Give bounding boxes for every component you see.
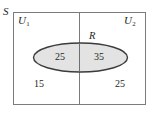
count-r-intersect-u2: 35 bbox=[94, 52, 104, 62]
region-u1-letter: U bbox=[18, 14, 26, 26]
region-u2-label: U2 bbox=[124, 15, 135, 26]
count-u1-outside-r: 15 bbox=[34, 79, 44, 89]
sample-space-label: S bbox=[3, 6, 9, 17]
count-r-intersect-u1: 25 bbox=[55, 52, 65, 62]
region-u1-label: U1 bbox=[18, 15, 29, 26]
event-r-label: R bbox=[89, 31, 95, 42]
event-r-ellipse bbox=[34, 43, 128, 72]
region-u1-subscript: 1 bbox=[26, 20, 29, 27]
venn-diagram-figure: S U1 U2 R 25 35 15 25 bbox=[0, 0, 156, 113]
count-u2-outside-r: 25 bbox=[115, 79, 125, 89]
region-u2-letter: U bbox=[124, 14, 132, 26]
region-u2-subscript: 2 bbox=[132, 20, 135, 27]
